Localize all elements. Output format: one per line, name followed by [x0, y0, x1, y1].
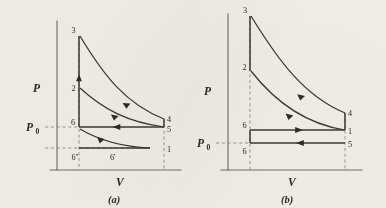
panel-a-y-axis-label: P [33, 82, 41, 94]
panel-b-arrow-5-6 [296, 140, 304, 146]
panel-a-p0-main: P [26, 121, 34, 133]
panel-a-label-6: 6 [71, 118, 75, 127]
panel-a-label-6-double-prime: 6'' [72, 153, 80, 162]
panel-b-x-axis-label: V [288, 176, 297, 188]
panel-b-label-1: 1 [348, 127, 352, 136]
panel-b-label-6-upper: 6 [243, 121, 247, 130]
panel-a: 3 2 6 4 5 1 6'' 6' P P 0 V (a) [26, 21, 181, 206]
panel-b-arrow-3-4 [297, 94, 305, 100]
panel-a-label-2: 2 [72, 84, 76, 93]
panel-b-label-4: 4 [348, 109, 352, 118]
panel-b-p0-tick-label: P 0 [197, 137, 211, 152]
panel-b-arrow-6-1 [295, 127, 303, 133]
panel-b-caption: (b) [281, 194, 293, 206]
panel-a-process-3-4 [80, 36, 164, 119]
panel-a-label-6-prime: 6' [110, 153, 116, 162]
panel-a-label-1: 1 [167, 145, 171, 154]
panel-b-label-2: 2 [243, 63, 247, 72]
panel-a-arrow-5-6 [113, 124, 121, 130]
panel-b-label-6-lower: 6 [243, 147, 247, 156]
panel-a-arrow-2-3 [76, 74, 82, 81]
panel-a-process-6-1 [80, 129, 150, 148]
panel-b-process-3-4 [251, 16, 345, 113]
pv-diagram-svg: 3 2 6 4 5 1 6'' 6' P P 0 V (a) [0, 0, 386, 208]
panel-a-p0-subscript: 0 [36, 127, 40, 136]
panel-a-caption: (a) [108, 194, 120, 206]
panel-a-label-5: 5 [167, 125, 171, 134]
panel-b-label-5: 5 [348, 140, 352, 149]
panel-b-label-3: 3 [243, 6, 247, 15]
panel-a-x-axis-label: V [116, 176, 125, 188]
figure-root: 3 2 6 4 5 1 6'' 6' P P 0 V (a) [0, 0, 386, 208]
panel-b-arrow-2-1 [286, 114, 294, 120]
panel-a-arrow-2-5 [111, 114, 119, 120]
panel-b: 3 2 6 6 4 1 5 P P 0 V (b) [197, 6, 362, 206]
panel-a-label-4: 4 [167, 115, 171, 124]
panel-a-p0-tick-label: P 0 [26, 121, 40, 136]
panel-b-p0-main: P [197, 137, 205, 149]
panel-b-p0-subscript: 0 [207, 143, 211, 152]
panel-a-arrow-3-4 [123, 103, 131, 109]
panel-a-process-2-5 [80, 88, 164, 127]
panel-b-y-axis-label: P [204, 85, 212, 97]
panel-a-label-3: 3 [72, 26, 76, 35]
